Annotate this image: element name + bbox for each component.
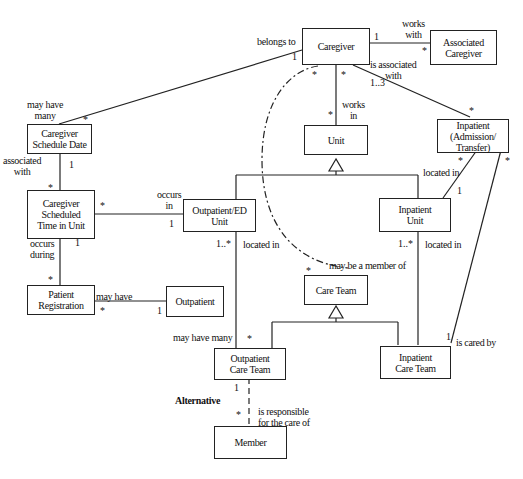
label-may-be-a-member-of: may be a member of bbox=[329, 260, 406, 271]
mult-may-have-registration: * bbox=[100, 306, 105, 316]
mult-occurs-during-time: 1 bbox=[75, 238, 80, 248]
class-label: Caregiver bbox=[318, 41, 355, 52]
label-works-in: works in bbox=[342, 99, 365, 121]
generalization-arrow-unit bbox=[329, 159, 343, 171]
mult-inpatient-unit: 1..* bbox=[398, 239, 413, 249]
label-associated-with: associated with bbox=[3, 155, 41, 177]
mult-is-associated-caregiver: 1..3 bbox=[370, 78, 385, 88]
mult-occurs-in-time: * bbox=[100, 201, 105, 211]
label-is-responsible-for-the-care-of: is responsible for the care of bbox=[258, 406, 310, 428]
mult-occurs-in-unit: 1 bbox=[169, 219, 174, 229]
label-may-have: may have bbox=[96, 291, 132, 302]
label-located-in-inpatient: located in bbox=[425, 239, 461, 250]
class-label: Inpatient (Admission/ Transfer) bbox=[450, 120, 496, 153]
mult-works-in-caregiver: * bbox=[341, 70, 346, 80]
label-alternative: Alternative bbox=[175, 395, 220, 406]
mult-belongs-to-schedule: * bbox=[83, 115, 88, 125]
label-may-have-many-bottom: may have many bbox=[173, 332, 232, 343]
class-label: Outpatient/ED Unit bbox=[192, 205, 246, 227]
class-inpatient-unit[interactable]: Inpatient Unit bbox=[379, 198, 451, 232]
mult-may-have-many-team: * bbox=[247, 334, 252, 344]
class-inpatient-admission-transfer[interactable]: Inpatient (Admission/ Transfer) bbox=[437, 119, 509, 153]
class-patient-registration[interactable]: Patient Registration bbox=[27, 285, 95, 315]
class-label: Unit bbox=[328, 135, 345, 146]
mult-is-cared-by-admission: * bbox=[505, 156, 510, 166]
class-label: Caregiver Schedule Date bbox=[32, 128, 86, 150]
class-care-team[interactable]: Care Team bbox=[304, 275, 368, 305]
mult-may-be-member-caregiver: * bbox=[312, 70, 317, 80]
class-unit[interactable]: Unit bbox=[304, 125, 368, 155]
class-outpatient-ed-unit[interactable]: Outpatient/ED Unit bbox=[183, 199, 256, 232]
mult-located-in-admission: * bbox=[458, 156, 463, 166]
mult-located-in-inpatient-unit: 1 bbox=[457, 186, 462, 196]
class-label: Outpatient Care Team bbox=[230, 353, 271, 375]
label-occurs-in: occurs in bbox=[157, 189, 181, 211]
mult-responsible-member: * bbox=[236, 410, 241, 420]
class-caregiver[interactable]: Caregiver bbox=[302, 28, 370, 65]
generalization-arrow-care-team bbox=[329, 306, 343, 318]
class-outpatient-care-team[interactable]: Outpatient Care Team bbox=[214, 348, 286, 380]
mult-may-be-member-care-team: * bbox=[306, 266, 311, 276]
class-outpatient[interactable]: Outpatient bbox=[166, 286, 224, 317]
mult-occurs-during-registration: * bbox=[48, 275, 53, 285]
mult-outpatient-unit: 1..* bbox=[216, 239, 231, 249]
class-caregiver-schedule-date[interactable]: Caregiver Schedule Date bbox=[27, 124, 92, 154]
mult-works-with-caregiver: 1 bbox=[374, 32, 379, 42]
label-is-cared-by: is cared by bbox=[456, 337, 496, 348]
label-belongs-to: belongs to bbox=[257, 36, 295, 47]
class-label: Member bbox=[234, 437, 266, 448]
class-inpatient-care-team[interactable]: Inpatient Care Team bbox=[380, 346, 451, 379]
mult-belongs-to-caregiver: 1 bbox=[292, 52, 297, 62]
mult-responsible-team: 1 bbox=[234, 383, 239, 393]
class-label: Care Team bbox=[316, 285, 357, 296]
label-located-in-admission: located in bbox=[423, 167, 459, 178]
mult-works-in-unit: * bbox=[328, 110, 333, 120]
class-associated-caregiver[interactable]: Associated Caregiver bbox=[430, 30, 497, 65]
class-label: Inpatient Unit bbox=[399, 204, 432, 226]
class-label: Patient Registration bbox=[38, 289, 83, 311]
label-works-with: works with bbox=[402, 18, 425, 40]
class-label: Outpatient bbox=[175, 296, 214, 307]
label-occurs-during: occurs during bbox=[30, 238, 54, 260]
mult-is-associated-admission: * bbox=[469, 106, 474, 116]
class-member[interactable]: Member bbox=[214, 426, 287, 459]
mult-associated-with-schedule: 1 bbox=[69, 160, 74, 170]
uml-diagram: Caregiver Associated Caregiver Caregiver… bbox=[0, 0, 523, 479]
label-located-in-outpatient: located in bbox=[243, 239, 279, 250]
class-caregiver-scheduled-time-in-unit[interactable]: Caregiver Scheduled Time in Unit bbox=[27, 190, 95, 239]
label-may-have-many-top: may have many bbox=[27, 99, 63, 121]
mult-is-cared-by-team: 1 bbox=[446, 332, 451, 342]
class-label: Associated Caregiver bbox=[443, 37, 484, 59]
mult-associated-with-time: * bbox=[48, 183, 53, 193]
mult-works-with-associated: * bbox=[422, 46, 427, 56]
class-label: Caregiver Scheduled Time in Unit bbox=[37, 198, 85, 231]
mult-may-have-outpatient: 1 bbox=[157, 306, 162, 316]
class-label: Inpatient Care Team bbox=[395, 352, 436, 374]
line-belongs-to bbox=[59, 50, 302, 124]
